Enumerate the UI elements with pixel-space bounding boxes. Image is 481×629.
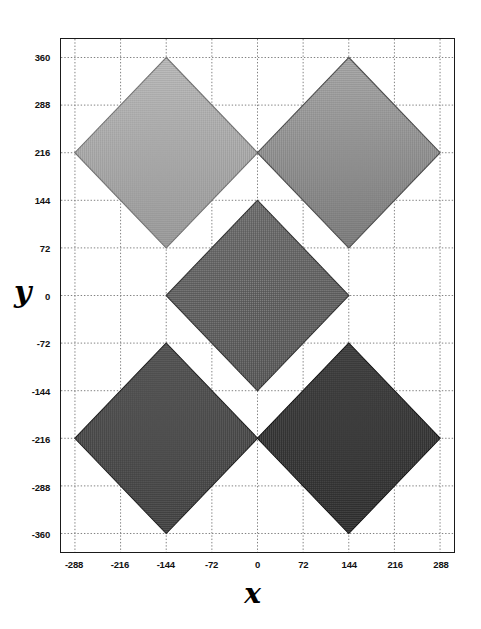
bottom-left-diamond — [75, 343, 258, 533]
top-left-diamond — [75, 58, 258, 248]
x-axis-title: x — [0, 580, 481, 608]
y-tick-label: 360 — [35, 51, 50, 62]
y-tick-label: 288 — [35, 99, 50, 110]
y-tick-label: 144 — [35, 194, 50, 205]
x-axis-tick-labels: -288-216-144-72072144216288 — [60, 559, 455, 575]
x-tick-label: -288 — [65, 559, 83, 570]
y-tick-label: -360 — [32, 529, 50, 540]
bottom-right-diamond — [258, 343, 441, 533]
y-tick-label: 72 — [40, 242, 50, 253]
x-tick-label: 144 — [342, 559, 357, 570]
plot-area — [60, 38, 455, 553]
top-right-diamond — [258, 58, 441, 248]
y-tick-label: -144 — [32, 386, 50, 397]
data-shapes-layer — [61, 39, 454, 552]
x-tick-label: 72 — [298, 559, 308, 570]
center-diamond — [166, 200, 349, 390]
x-tick-label: -144 — [157, 559, 175, 570]
x-tick-label: 0 — [255, 559, 260, 570]
y-tick-label: 0 — [45, 290, 50, 301]
x-tick-label: -72 — [205, 559, 218, 570]
x-tick-label: -216 — [111, 559, 129, 570]
chart-figure: y 360288216144720-72-144-216-288-360 -28… — [0, 0, 481, 629]
y-tick-label: -216 — [32, 433, 50, 444]
x-tick-label: 288 — [433, 559, 448, 570]
y-axis-tick-labels: 360288216144720-72-144-216-288-360 — [0, 38, 56, 553]
y-tick-label: 216 — [35, 147, 50, 158]
y-tick-label: -72 — [37, 338, 50, 349]
x-tick-label: 216 — [387, 559, 402, 570]
y-tick-label: -288 — [32, 481, 50, 492]
